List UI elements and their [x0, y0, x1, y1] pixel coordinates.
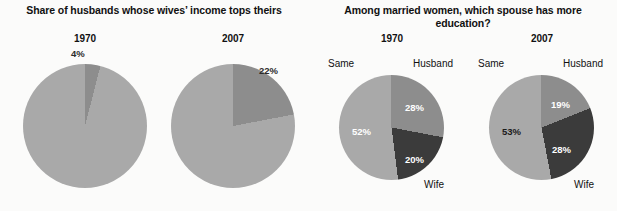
year-label-income-2007: 2007 — [203, 33, 263, 44]
year-label-education-2007: 2007 — [512, 33, 572, 44]
year-label-education-1970: 1970 — [362, 33, 422, 44]
pie-category-education-2007-wife: Wife — [574, 179, 594, 190]
pie-category-education-2007-same: Same — [478, 58, 504, 69]
pie-value-education-2007-wife: 28% — [552, 144, 571, 155]
panel-title-education: Among married women, which spouse has mo… — [327, 4, 599, 30]
pie-value-education-1970-wife: 20% — [405, 154, 424, 165]
pie-value-education-2007-husband: 19% — [551, 99, 570, 110]
panel-title-income: Share of husbands whose wives’ income to… — [2, 4, 306, 17]
pie-category-education-1970-same: Same — [328, 58, 354, 69]
pie-category-education-1970-husband: Husband — [413, 58, 453, 69]
pie-category-education-2007-husband: Husband — [563, 58, 603, 69]
pie-chart-income-1970[interactable] — [23, 64, 147, 188]
pie-chart-income-2007[interactable] — [171, 64, 295, 188]
pie-value-education-1970-husband: 28% — [405, 102, 424, 113]
year-label-income-1970: 1970 — [55, 33, 115, 44]
panel-income: Share of husbands whose wives’ income to… — [0, 0, 308, 211]
panel-education: Among married women, which spouse has mo… — [309, 0, 617, 211]
pie-value-income-1970-4: 4% — [71, 48, 85, 59]
pie-slices-income-2007 — [171, 64, 295, 188]
pie-value-education-1970-same: 52% — [352, 126, 371, 137]
pie-value-income-2007-22: 22% — [259, 65, 278, 76]
pie-slices-income-1970 — [23, 64, 147, 188]
pie-value-education-2007-same: 53% — [502, 126, 521, 137]
pie-category-education-1970-wife: Wife — [424, 179, 444, 190]
